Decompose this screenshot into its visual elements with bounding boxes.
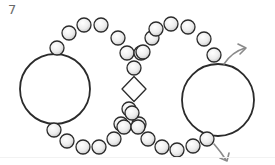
bead bbox=[141, 132, 155, 146]
bead bbox=[197, 32, 211, 46]
bead bbox=[77, 18, 91, 32]
bead bbox=[76, 140, 90, 154]
diamond-bead bbox=[122, 77, 146, 102]
bead bbox=[155, 140, 169, 154]
bead bbox=[131, 120, 145, 134]
bead bbox=[164, 17, 178, 31]
bead bbox=[50, 41, 64, 55]
left-ring bbox=[20, 54, 90, 124]
bead bbox=[62, 26, 76, 40]
bead bbox=[181, 20, 195, 34]
bead bbox=[94, 18, 108, 32]
bead bbox=[207, 48, 221, 62]
bead bbox=[92, 140, 106, 154]
bead bbox=[200, 132, 214, 146]
bead bbox=[127, 61, 141, 75]
bead bbox=[170, 143, 184, 157]
center-diamond-bead bbox=[122, 77, 146, 102]
bead bbox=[47, 123, 61, 137]
right-ring bbox=[182, 64, 254, 136]
figure-eight-bead-diagram bbox=[0, 0, 275, 165]
bead bbox=[117, 120, 131, 134]
bead bbox=[125, 106, 139, 120]
bead bbox=[136, 45, 150, 59]
bead bbox=[107, 132, 121, 146]
bead bbox=[186, 139, 200, 153]
bead bbox=[120, 46, 134, 60]
divider-line bbox=[0, 157, 275, 158]
arrow-up-right-icon bbox=[224, 48, 245, 64]
bead bbox=[111, 31, 125, 45]
bead bbox=[149, 22, 163, 36]
bead bbox=[60, 134, 74, 148]
